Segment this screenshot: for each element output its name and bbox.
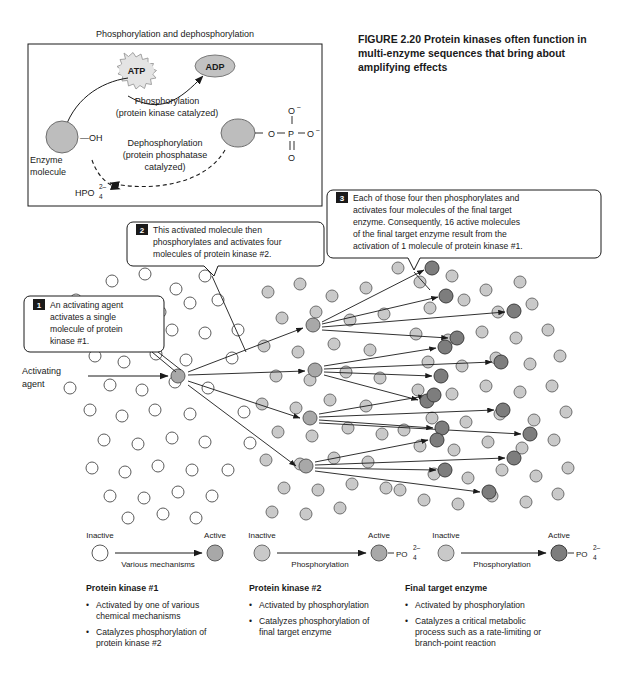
callout-2-line-3: molecules of protein kinase #2. [153, 249, 271, 259]
callout-1: 1 An activating agent activates a single… [24, 296, 181, 372]
activated-target-enzyme [439, 289, 453, 303]
callout-2-line-2: phosphorylates and activates four [153, 237, 282, 247]
legend-active-circle-3 [551, 545, 567, 561]
hydroxyl-label: —OH [80, 133, 103, 143]
callout-3: 3 Each of those four then phosphorylates… [327, 190, 601, 290]
description-column-1: Protein kinase #1 • Activated by one of … [86, 583, 207, 648]
activating-agent-label-line-2: agent [22, 379, 45, 389]
legend-inactive-label-2: Inactive [248, 531, 276, 540]
column-3-item-2-line-2: process such as a rate-limiting or [415, 627, 541, 637]
activated-target-enzyme [482, 485, 496, 499]
column-2-heading: Protein kinase #2 [249, 583, 321, 593]
activated-target-enzyme [425, 261, 439, 275]
phosphate-o-link: O [268, 129, 275, 139]
column-1-bullet-1: • [86, 600, 89, 610]
legend-inactive-label-1: Inactive [86, 531, 114, 540]
activated-target-enzyme [450, 331, 464, 345]
legend-active-label-3: Active [548, 531, 570, 540]
callout-1-line-4: kinase #1. [50, 336, 89, 346]
figure-title: FIGURE 2.20 Protein kinases often functi… [358, 33, 587, 73]
activated-kinase2 [299, 459, 313, 473]
legend-phosphate-sup-3: 2– [593, 544, 601, 551]
activated-target-enzyme [523, 427, 537, 441]
legend-arrow-label-2: Phosphorylation [291, 560, 348, 569]
figure-title-line-2: multi-enzyme sequences that bring about [358, 47, 566, 59]
description-column-2: Protein kinase #2 • Activated by phospho… [249, 583, 370, 637]
legend-phosphate-sub-2: 4 [413, 554, 417, 561]
legend-arrow-label-1: Various mechanisms [121, 560, 195, 569]
callout-3-number: 3 [340, 194, 345, 203]
inactive-target-enzyme-pool [392, 262, 574, 510]
inset-panel: Phosphorylation and dephosphorylation AT… [28, 29, 322, 206]
column-1-bullet-2: • [86, 627, 89, 637]
column-2-item-2-line-1: Catalyzes phosphorylation of [259, 616, 370, 626]
column-3-item-1-line-1: Activated by phosphorylation [415, 600, 525, 610]
legend-stage-1: Inactive Various mechanisms Active [86, 531, 226, 569]
phosphate-o-right-charge: – [316, 126, 320, 133]
legend-phosphate-formula-3: PO [576, 550, 588, 559]
phosphorylation-label-line-1: Phosphorylation [135, 96, 200, 106]
callout-3-line-1: Each of those four then phosphorylates a… [353, 193, 519, 203]
legend-inactive-circle-2 [254, 545, 270, 561]
adp-molecule: ADP [195, 55, 235, 77]
callout-1-line-3: molecule of protein [50, 324, 123, 334]
callout-1-line-2: activates a single [50, 312, 116, 322]
legend-row: Inactive Various mechanisms Active Inact… [86, 531, 600, 569]
column-3-item-2-line-1: Catalyzes a critical metabolic [415, 616, 527, 626]
phosphorylation-label-line-2: (protein kinase catalyzed) [116, 108, 219, 118]
legend-phosphate-sub-3: 4 [593, 554, 597, 561]
column-2-item-1-line-1: Activated by phosphorylation [259, 600, 369, 610]
activating-agent-label-line-1: Activating [22, 366, 61, 376]
legend-inactive-label-3: Inactive [432, 531, 460, 540]
column-1-item-1-line-2: chemical mechanisms [96, 611, 181, 621]
activated-target-enzyme [427, 388, 441, 402]
legend-active-circle-2 [371, 545, 387, 561]
activated-target-enzyme [507, 451, 521, 465]
legend-phosphate-sup-2: 2– [413, 544, 421, 551]
phosphate-p-atom: P [288, 129, 294, 139]
callout-1-line-1: An activating agent [50, 300, 124, 310]
description-column-3: Final target enzyme • Activated by phosp… [405, 583, 541, 648]
callout-3-line-3: enzyme. Consequently, 16 active molecule… [353, 217, 520, 227]
legend-stage-2: Inactive Phosphorylation Active PO 4 2– [248, 531, 420, 569]
column-2-item-2-line-2: final target enzyme [259, 627, 332, 637]
activated-kinase2-group [299, 318, 322, 473]
activated-kinase2 [306, 318, 320, 332]
dephosphorylation-label-line-3: catalyzed) [144, 162, 185, 172]
column-2-bullet-1: • [249, 600, 252, 610]
activated-target-enzyme [430, 433, 444, 447]
legend-active-label-1: Active [204, 531, 226, 540]
column-3-bullet-1: • [405, 600, 408, 610]
column-1-item-2-line-1: Catalyzes phosphorylation of [96, 627, 207, 637]
column-2-bullet-2: • [249, 616, 252, 626]
column-3-bullet-2: • [405, 616, 408, 626]
enzyme-label-line-1: Enzyme [30, 155, 63, 165]
inorganic-phosphate-superscript: 2– [99, 183, 107, 190]
activated-target-enzyme [434, 369, 448, 383]
inactive-kinase2-pool [256, 278, 392, 520]
activated-target-enzyme [507, 304, 521, 318]
callout-2-line-1: This activated molecule then [153, 225, 262, 235]
activated-kinase2 [303, 411, 317, 425]
enzyme-label-line-2: molecule [30, 167, 66, 177]
atp-label: ATP [128, 66, 145, 76]
legend-arrow-label-3: Phosphorylation [473, 560, 530, 569]
figure-root: FIGURE 2.20 Protein kinases often functi… [0, 0, 629, 673]
callout-2-number: 2 [140, 226, 145, 235]
inorganic-phosphate-subscript: 4 [99, 193, 103, 200]
activated-target-enzyme [494, 355, 508, 369]
column-1-item-2-line-2: protein kinase #2 [96, 638, 162, 648]
legend-stage-3: Inactive Phosphorylation Active PO 4 2– [432, 531, 600, 569]
column-1-heading: Protein kinase #1 [86, 583, 158, 593]
dephosphorylation-label-line-2: (protein phosphatase [123, 150, 208, 160]
figure-title-line-1: FIGURE 2.20 Protein kinases often functi… [358, 33, 587, 45]
phosphate-o-top-charge: – [297, 103, 301, 110]
inset-title: Phosphorylation and dephosphorylation [96, 29, 254, 39]
legend-active-circle-1 [207, 545, 223, 561]
column-1-item-1-line-1: Activated by one of various [96, 600, 199, 610]
phosphate-o-bottom: O [288, 153, 295, 163]
callout-3-line-4: of the final target enzyme result from t… [353, 229, 507, 239]
activated-kinase1 [171, 369, 185, 383]
dephosphorylation-label-line-1: Dephosphorylation [127, 138, 202, 148]
legend-inactive-circle-1 [92, 545, 108, 561]
